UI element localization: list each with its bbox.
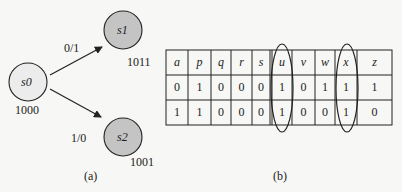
table-cell: 0 xyxy=(211,100,231,125)
node-s0-code: 1000 xyxy=(15,104,39,116)
table-cell: 1 xyxy=(335,75,357,100)
table-header-s: s xyxy=(252,50,270,75)
node-s2-code: 1001 xyxy=(130,156,154,168)
table-cell: 0 xyxy=(252,100,270,125)
panel-b-caption: (b) xyxy=(273,170,287,182)
edge-s0-s2 xyxy=(50,89,101,117)
node-s1-code: 1011 xyxy=(127,56,151,68)
table-cell: 0 xyxy=(315,100,335,125)
table-cell: 1 xyxy=(357,75,392,100)
edge-label-s0-s1: 0/1 xyxy=(64,42,79,54)
table-header-r: r xyxy=(231,50,252,75)
table-cell: 1 xyxy=(166,100,188,125)
table-cell: 1 xyxy=(188,75,211,100)
table-cell: 1 xyxy=(315,75,335,100)
table-header-p: p xyxy=(188,50,211,75)
node-s0-label: s0 xyxy=(21,76,32,88)
table-cell: 1 xyxy=(272,75,292,100)
table-cell: 1 xyxy=(188,100,211,125)
node-s1-label: s1 xyxy=(117,24,128,36)
panel-a-caption: (a) xyxy=(84,170,97,182)
table-cell: 0 xyxy=(166,75,188,100)
table-cell: 0 xyxy=(292,75,315,100)
table-header-x: x xyxy=(335,50,357,75)
table-cell: 0 xyxy=(231,100,252,125)
table-header-w: w xyxy=(315,50,335,75)
table-cell: 0 xyxy=(231,75,252,100)
table-cell: 0 xyxy=(292,100,315,125)
table-cell: 1 xyxy=(272,100,292,125)
table-header-v: v xyxy=(292,50,315,75)
table-cell: 1 xyxy=(335,100,357,125)
table-cell: 0 xyxy=(357,100,392,125)
table-cell: 0 xyxy=(211,75,231,100)
node-s2-label: s2 xyxy=(117,131,128,143)
table-header-q: q xyxy=(211,50,231,75)
table-header-u: u xyxy=(272,50,292,75)
edge-label-s0-s2: 1/0 xyxy=(71,132,86,144)
table-header-z: z xyxy=(357,50,392,75)
table-header-a: a xyxy=(166,50,188,75)
table-cell: 0 xyxy=(252,75,270,100)
